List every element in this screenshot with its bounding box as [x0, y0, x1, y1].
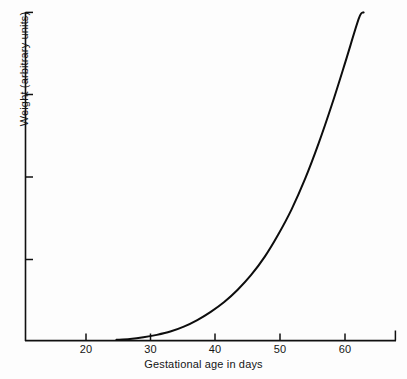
x-axis-title: Gestational age in days	[0, 358, 407, 370]
x-tick-label-60: 60	[335, 343, 355, 355]
growth-curve-line	[116, 12, 363, 339]
y-axis-title-wrapper: Weight (arbitrary units)	[15, 0, 33, 149]
plot-area	[0, 0, 407, 379]
x-tick-label-40: 40	[205, 343, 225, 355]
chart-figure: 20 30 40 50 60 Gestational age in days W…	[0, 0, 407, 379]
x-tick-label-50: 50	[270, 343, 290, 355]
y-axis-title: Weight (arbitrary units)	[18, 12, 30, 127]
x-tick-label-20: 20	[76, 343, 96, 355]
x-tick-label-30: 30	[141, 343, 161, 355]
